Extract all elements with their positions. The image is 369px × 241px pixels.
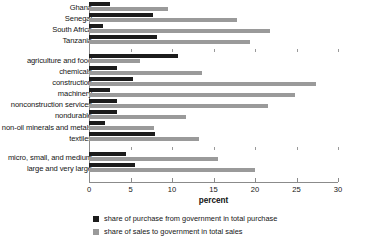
bar-purchase-share (89, 35, 157, 39)
category-label: nonconstruction services (11, 100, 92, 109)
legend-label-purchase: share of purchase from government in tot… (104, 214, 277, 223)
x-tick-label: 5 (128, 185, 132, 194)
bar-row: large and very large (0, 163, 369, 174)
x-tick (131, 178, 132, 182)
tick-stub (255, 49, 256, 52)
chart-legend: share of purchase from government in tot… (0, 212, 369, 238)
bar-row: construction (0, 77, 369, 88)
bar-purchase-share (89, 24, 103, 28)
x-axis-title: percent (89, 196, 338, 205)
bar-purchase-share (89, 163, 135, 167)
category-label: nondurable (55, 111, 92, 120)
bar-sales-share (89, 93, 295, 97)
x-tick (338, 178, 339, 182)
bar-sales-share (89, 82, 316, 86)
legend-label-sales: share of sales to government in total sa… (104, 227, 242, 236)
bar-row: chemicals (0, 66, 369, 77)
tick-stub (338, 49, 339, 52)
bar-purchase-share (89, 99, 117, 103)
tick-stub (214, 147, 215, 150)
category-label: Senegal (65, 14, 92, 23)
legend-swatch-dark-icon (93, 216, 99, 222)
bar-purchase-share (89, 66, 117, 70)
tick-stub (297, 147, 298, 150)
category-label: agriculture and food (27, 55, 92, 64)
x-tick-label: 10 (168, 185, 176, 194)
x-tick-label: 30 (334, 185, 342, 194)
tick-stub (172, 49, 173, 52)
x-tick-label: 20 (251, 185, 259, 194)
bar-sales-share (89, 157, 218, 161)
category-label: non-oil minerals and metals (2, 122, 92, 131)
bar-sales-share (89, 126, 154, 130)
category-label: construction (52, 78, 92, 87)
category-label: Tanzania (62, 36, 92, 45)
category-label: machinery (58, 89, 92, 98)
bar-sales-share (89, 115, 186, 119)
tick-stub (172, 147, 173, 150)
bar-row: textiles (0, 132, 369, 143)
tick-stub (255, 147, 256, 150)
legend-item-sales: share of sales to government in total sa… (93, 225, 369, 238)
bar-row: Ghana (0, 2, 369, 13)
tick-stub (338, 147, 339, 150)
x-tick-label: 0 (87, 185, 91, 194)
x-tick (172, 178, 173, 182)
category-label: chemicals (59, 67, 92, 76)
bar-sales-share (89, 7, 168, 11)
bar-sales-share (89, 59, 140, 63)
bar-row: Senegal (0, 13, 369, 24)
bar-purchase-share (89, 77, 133, 81)
bar-sales-share (89, 18, 237, 22)
x-tick-label: 25 (292, 185, 300, 194)
bar-sales-share (89, 40, 250, 44)
tick-stub (297, 49, 298, 52)
bar-purchase-share (89, 88, 110, 92)
bar-purchase-share (89, 152, 126, 156)
x-tick-label: 15 (209, 185, 217, 194)
x-tick (214, 178, 215, 182)
bar-row: agriculture and food (0, 54, 369, 65)
category-label: South Africa (52, 25, 92, 34)
bar-sales-share (89, 29, 270, 33)
bar-purchase-share (89, 132, 155, 136)
x-tick (255, 178, 256, 182)
plot-area: GhanaSenegalSouth AfricaTanzaniaagricult… (0, 0, 369, 186)
bar-row: micro, small, and medium (0, 152, 369, 163)
x-axis-line (89, 182, 338, 183)
bar-row: Tanzania (0, 35, 369, 46)
bar-row: nonconstruction services (0, 99, 369, 110)
legend-item-purchase: share of purchase from government in tot… (93, 212, 369, 225)
tick-stub (214, 49, 215, 52)
tick-stub (131, 49, 132, 52)
bar-chart: GhanaSenegalSouth AfricaTanzaniaagricult… (0, 0, 369, 241)
bar-row: machinery (0, 88, 369, 99)
category-label: large and very large (27, 164, 92, 173)
bar-purchase-share (89, 54, 178, 58)
x-tick (89, 178, 90, 182)
bar-sales-share (89, 168, 255, 172)
bar-purchase-share (89, 121, 105, 125)
bar-row: non-oil minerals and metals (0, 121, 369, 132)
bar-purchase-share (89, 110, 117, 114)
bar-row: nondurable (0, 110, 369, 121)
bar-purchase-share (89, 13, 153, 17)
category-label: micro, small, and medium (8, 153, 92, 162)
bar-sales-share (89, 104, 268, 108)
x-tick (297, 178, 298, 182)
legend-swatch-light-icon (93, 229, 99, 235)
bar-purchase-share (89, 2, 110, 6)
bar-sales-share (89, 137, 199, 141)
bar-sales-share (89, 71, 202, 75)
tick-stub (131, 147, 132, 150)
bar-row: South Africa (0, 24, 369, 35)
